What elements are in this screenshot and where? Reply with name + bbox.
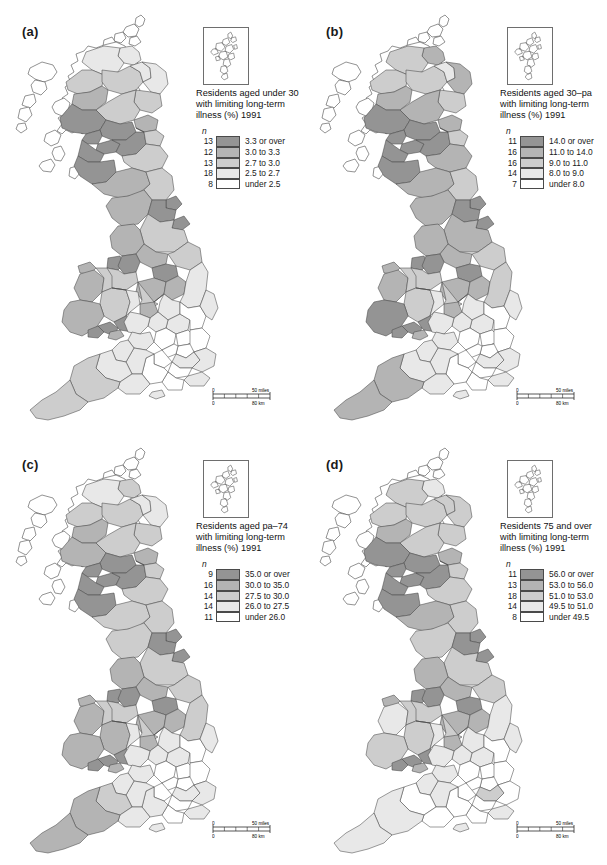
- legend-range: under 49.5: [544, 612, 589, 623]
- panel-c-scalebar: 0 50 miles 0 80 km: [212, 819, 284, 845]
- legend-count: 16: [500, 147, 520, 158]
- scale-km-zero: 0: [212, 834, 215, 839]
- district-en-tyne-wear[interactable]: [470, 196, 486, 210]
- legend-swatch: [216, 179, 240, 190]
- district-en-gt-manchester[interactable]: [118, 687, 140, 707]
- panel-b-legend: Residents aged 30–pa with limiting long-…: [500, 88, 606, 189]
- district-en-gt-manchester[interactable]: [422, 687, 444, 707]
- legend-range: 51.0 to 53.0: [544, 591, 593, 602]
- legend-title: Residents 75 and over with limiting long…: [500, 521, 606, 553]
- legend-range: 11.0 to 14.0: [544, 147, 593, 158]
- legend-range: 14.0 or over: [544, 136, 594, 147]
- legend-count: 9: [196, 569, 216, 580]
- legend-swatch: [216, 158, 240, 169]
- legend-range: 2.5 to 2.7: [240, 168, 280, 179]
- legend-row: 16 11.0 to 14.0: [500, 147, 606, 158]
- panel-c-map[interactable]: [8, 443, 208, 858]
- district-en-cleveland[interactable]: [476, 216, 494, 230]
- district-en-isle-of-wight[interactable]: [453, 390, 469, 399]
- legend-row: 13 3.3 or over: [196, 136, 302, 147]
- legend-count: 14: [196, 601, 216, 612]
- legend-swatch: [216, 580, 240, 591]
- legend-row: 11 under 26.0: [196, 612, 302, 623]
- legend-title: Residents aged under 30 with limiting lo…: [196, 88, 302, 120]
- panel-b-map[interactable]: [312, 10, 512, 425]
- choropleth-map-d: [312, 443, 512, 858]
- legend-range: under 8.0: [544, 179, 584, 190]
- district-wa-gwynedd[interactable]: [378, 703, 408, 735]
- panel-a-map[interactable]: [8, 10, 208, 425]
- scale-km-zero: 0: [212, 401, 215, 406]
- legend-range: under 26.0: [240, 612, 285, 623]
- legend-row: 14 8.0 to 9.0: [500, 168, 606, 179]
- legend-row: 9 35.0 or over: [196, 569, 302, 580]
- legend-swatch: [520, 168, 544, 179]
- legend-count: 16: [196, 580, 216, 591]
- legend-row: 13 53.0 to 56.0: [500, 580, 606, 591]
- district-en-gt-manchester[interactable]: [118, 254, 140, 274]
- panel-b-scalebar: 0 50 miles 0 80 km: [516, 386, 588, 412]
- panel-a-scalebar: 0 50 miles 0 80 km: [212, 386, 284, 412]
- legend-n-header: n: [202, 127, 302, 135]
- legend-count: 7: [500, 179, 520, 190]
- district-sc-fife[interactable]: [438, 115, 462, 132]
- district-wa-gwynedd[interactable]: [74, 703, 104, 735]
- district-sc-fife[interactable]: [438, 548, 462, 565]
- legend-swatch: [216, 601, 240, 612]
- legend-swatch: [520, 569, 544, 580]
- district-en-isle-of-wight[interactable]: [149, 823, 165, 832]
- district-wa-gwynedd[interactable]: [378, 270, 408, 302]
- scale-miles-max: 50 miles: [252, 388, 270, 393]
- district-sc-fife[interactable]: [134, 548, 158, 565]
- legend-range: 56.0 or over: [544, 569, 594, 580]
- legend-n-header: n: [506, 127, 606, 135]
- district-sc-fife[interactable]: [134, 115, 158, 132]
- legend-swatch: [216, 591, 240, 602]
- legend-range: 3.3 or over: [240, 136, 285, 147]
- shetland-orkney-inset-icon: [204, 461, 248, 517]
- legend-count: 11: [196, 612, 216, 623]
- legend-swatch: [520, 612, 544, 623]
- legend-swatch: [520, 136, 544, 147]
- panel-d-inset-box: [507, 460, 553, 518]
- shetland-orkney-inset-icon: [508, 461, 552, 517]
- legend-rows: 13 3.3 or over 12 3.0 to 3.3 13 2.7 to 3…: [196, 136, 302, 189]
- district-en-cleveland[interactable]: [476, 649, 494, 663]
- district-en-cleveland[interactable]: [172, 649, 190, 663]
- district-en-tyne-wear[interactable]: [166, 629, 182, 643]
- scale-km-max: 80 km: [252, 834, 265, 839]
- panel-d-legend: Residents 75 and over with limiting long…: [500, 521, 606, 622]
- district-en-tyne-wear[interactable]: [166, 196, 182, 210]
- district-en-gt-manchester[interactable]: [422, 254, 444, 274]
- district-en-isle-of-wight[interactable]: [149, 390, 165, 399]
- panel-c-inset-box: [203, 460, 249, 518]
- choropleth-map-b: [312, 10, 512, 425]
- legend-row: 7 under 8.0: [500, 179, 606, 190]
- district-en-cleveland[interactable]: [172, 216, 190, 230]
- scale-km-max: 80 km: [556, 401, 569, 406]
- district-wa-gwynedd[interactable]: [74, 270, 104, 302]
- legend-rows: 11 56.0 or over 13 53.0 to 56.0 18 51.0 …: [500, 569, 606, 622]
- legend-row: 11 14.0 or over: [500, 136, 606, 147]
- legend-count: 8: [500, 612, 520, 623]
- scale-miles-max: 50 miles: [556, 821, 574, 826]
- legend-count: 13: [196, 158, 216, 169]
- legend-swatch: [216, 569, 240, 580]
- legend-row: 8 under 2.5: [196, 179, 302, 190]
- legend-range: 53.0 to 56.0: [544, 580, 593, 591]
- legend-title: Residents aged pa–74 with limiting long-…: [196, 521, 302, 553]
- legend-count: 14: [500, 601, 520, 612]
- scale-km-max: 80 km: [252, 401, 265, 406]
- legend-row: 18 2.5 to 2.7: [196, 168, 302, 179]
- legend-swatch: [520, 580, 544, 591]
- legend-swatch: [520, 591, 544, 602]
- legend-count: 13: [500, 580, 520, 591]
- district-en-tyne-wear[interactable]: [470, 629, 486, 643]
- scale-miles-zero: 0: [212, 388, 215, 393]
- panel-c: (c): [0, 433, 303, 865]
- district-en-isle-of-wight[interactable]: [453, 823, 469, 832]
- legend-count: 8: [196, 179, 216, 190]
- legend-range: 49.5 to 51.0: [544, 601, 593, 612]
- legend-swatch: [216, 147, 240, 158]
- panel-d-map[interactable]: [312, 443, 512, 858]
